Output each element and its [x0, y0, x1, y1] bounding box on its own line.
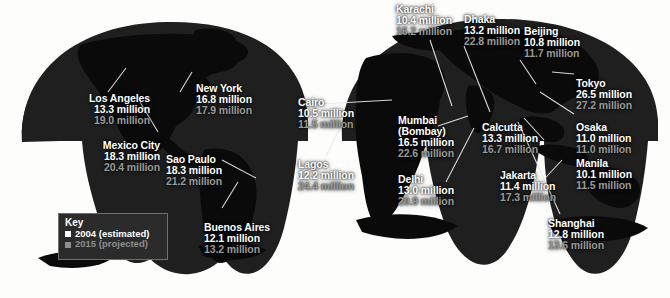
city-label-buenos-aires: Buenos Aires 12.1 million 13.2 million: [204, 222, 270, 255]
world-map: Los Angeles 13.3 million 19.0 million Ne…: [0, 0, 670, 298]
city-label-sao-paulo: Sao Paulo 18.3 million 21.2 million: [166, 154, 222, 187]
value-2015: 20.4 million: [60, 162, 160, 173]
legend-label-2015: 2015 (projected): [75, 239, 148, 250]
value-2015: 21.2 million: [166, 176, 222, 187]
city-label-mexico-city: Mexico City 18.3 million 20.4 million: [60, 140, 160, 173]
value-2015: 22.8 million: [464, 36, 520, 47]
value-2015: 17.9 million: [196, 105, 252, 116]
value-2015: 11.7 million: [524, 48, 580, 59]
city-label-new-york: New York 16.8 million 17.9 million: [196, 83, 252, 116]
city-label-manila: Manila 10.1 million 11.5 million: [576, 158, 632, 191]
value-2015: 27.2 million: [576, 100, 632, 111]
value-2015: 17.3 million: [500, 192, 556, 203]
city-label-mumbai: Mumbai (Bombay) 16.5 million 22.6 millio…: [398, 115, 454, 159]
value-2015: 24.4 million: [298, 181, 354, 192]
city-label-delhi: Delhi 13.0 million 20.9 million: [398, 174, 454, 207]
city-label-dhaka: Dhaka 13.2 million 22.8 million: [464, 14, 520, 47]
city-label-lagos: Lagos 12.2 million 24.4 million: [298, 159, 354, 192]
legend-title: Key: [65, 217, 162, 229]
value-2015: 22.6 million: [398, 148, 454, 159]
value-2015: 11.5 million: [298, 119, 354, 130]
city-label-los-angeles: Los Angeles 13.3 million 19.0 million: [44, 93, 150, 126]
city-label-jakarta: Jakarta 11.4 million 17.3 million: [500, 170, 556, 203]
value-2015: 19.0 million: [44, 115, 150, 126]
value-2015: 11.0 million: [576, 144, 631, 155]
city-label-karachi: Karachi 10.4 million 16.2 million: [396, 4, 452, 37]
city-label-osaka: Osaka 11.0 million 11.0 million: [576, 122, 631, 155]
city-label-beijing: Beijing 10.8 million 11.7 million: [524, 26, 580, 59]
map-legend: Key 2004 (estimated) 2015 (projected): [58, 213, 168, 260]
value-2015: 13.2 million: [204, 244, 270, 255]
value-2015: 16.7 million: [482, 144, 538, 155]
legend-swatch-2004: [65, 231, 71, 237]
city-label-cairo: Cairo 10.5 million 11.5 million: [298, 97, 354, 130]
legend-swatch-2015: [65, 242, 71, 248]
value-2015: 13.6 million: [548, 240, 604, 251]
legend-item-2015: 2015 (projected): [65, 239, 162, 250]
value-2015: 16.2 million: [396, 26, 452, 37]
city-label-shanghai: Shanghai 12.8 million 13.6 million: [548, 218, 604, 251]
city-label-calcutta: Calcutta 13.3 million 16.7 million: [482, 122, 538, 155]
value-2015: 11.5 million: [576, 180, 632, 191]
city-label-tokyo: Tokyo 26.5 million 27.2 million: [576, 78, 632, 111]
value-2015: 20.9 million: [398, 196, 454, 207]
